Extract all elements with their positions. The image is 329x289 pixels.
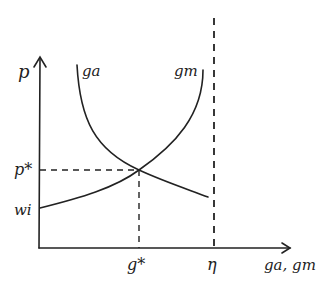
equilibrium-diagram: p ga gm p* wi g* η ga, gm [0,0,329,289]
y-axis-label: p [18,61,30,82]
wi-label: wi [14,201,32,219]
p-star-label: p* [14,160,32,179]
gm-curve-label: gm [174,62,198,80]
eta-label: η [207,255,217,274]
ga-curve-label: ga [82,62,101,80]
x-axis-label: ga, gm [264,256,316,274]
g-star-label: g* [127,255,145,274]
ga-curve [77,65,208,197]
x-axis [39,243,290,253]
y-axis [34,57,46,248]
gm-curve [40,70,203,208]
